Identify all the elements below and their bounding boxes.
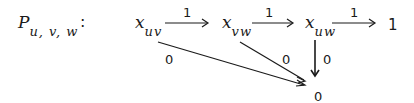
arrow-uw-one-icon xyxy=(332,19,375,27)
arrow-vw-zero-icon xyxy=(240,42,305,83)
arrow-vw-uw-icon xyxy=(252,19,293,27)
arrow-uv-zero-icon xyxy=(158,42,305,86)
arrow-uw-zero-icon xyxy=(311,40,319,76)
arrows-layer xyxy=(0,0,414,103)
arrow-uv-vw-icon xyxy=(165,19,208,27)
